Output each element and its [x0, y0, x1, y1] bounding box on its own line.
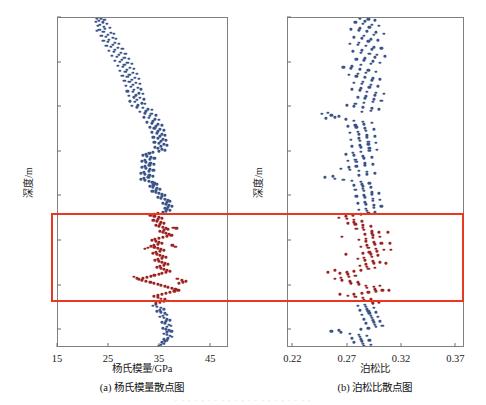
data-point — [127, 95, 130, 98]
y-tick-mark — [287, 284, 291, 285]
data-point — [359, 213, 362, 216]
data-point — [140, 166, 143, 169]
data-point — [356, 43, 359, 46]
data-point — [373, 266, 376, 269]
data-point — [143, 179, 146, 182]
x-tick-mark — [455, 343, 456, 347]
data-point — [344, 153, 347, 156]
data-point — [365, 240, 368, 243]
data-point — [108, 26, 111, 29]
data-point — [151, 175, 154, 178]
data-point — [347, 74, 350, 77]
data-point — [357, 239, 360, 242]
data-point — [161, 242, 164, 245]
data-point — [165, 139, 168, 142]
data-point — [370, 79, 373, 82]
data-point — [379, 284, 382, 287]
x-tick-label: 0.37 — [446, 353, 464, 364]
y-tick-mark — [287, 106, 291, 107]
data-point — [164, 134, 167, 137]
data-point — [387, 289, 390, 292]
data-point — [348, 132, 351, 135]
data-point — [106, 40, 109, 43]
data-point — [163, 308, 166, 311]
data-point — [365, 129, 368, 132]
data-point — [355, 161, 358, 164]
data-point — [340, 331, 343, 334]
data-point — [330, 330, 333, 333]
data-point — [152, 169, 155, 172]
data-point — [150, 122, 153, 125]
data-point — [370, 193, 373, 196]
data-point — [143, 247, 146, 250]
data-point — [378, 192, 381, 195]
data-point — [368, 52, 371, 55]
data-point — [358, 18, 361, 19]
data-point — [165, 256, 168, 259]
data-point — [353, 341, 356, 344]
data-point — [155, 183, 158, 186]
data-point — [347, 275, 350, 278]
data-point — [379, 78, 382, 81]
data-point — [353, 81, 356, 84]
data-point — [153, 157, 156, 160]
data-point — [349, 67, 352, 70]
data-point — [169, 291, 172, 294]
data-point — [157, 237, 160, 240]
data-point — [148, 126, 151, 129]
data-point — [381, 324, 384, 327]
data-point — [365, 203, 368, 206]
x-tick-label: 0.27 — [338, 353, 356, 364]
data-point — [339, 293, 342, 296]
data-point — [141, 154, 144, 157]
data-point — [143, 112, 146, 115]
data-point — [148, 152, 151, 155]
data-point — [367, 291, 370, 294]
data-point — [379, 235, 382, 238]
y-tick-mark — [57, 17, 61, 18]
data-point — [365, 71, 368, 74]
data-point — [352, 50, 355, 53]
data-point — [369, 109, 372, 112]
data-point — [379, 320, 382, 323]
data-point — [380, 47, 383, 50]
data-point — [349, 28, 352, 31]
data-point — [144, 103, 147, 106]
data-point — [371, 302, 374, 305]
data-point — [377, 315, 380, 318]
data-point — [390, 249, 393, 252]
data-point — [372, 307, 375, 310]
figure-caption-partial: · · · · · · · · · · · · · · · · · · · · … — [0, 396, 486, 404]
data-point — [375, 250, 378, 253]
data-point — [156, 212, 159, 215]
data-point — [162, 342, 165, 345]
data-point — [184, 280, 187, 283]
data-point — [158, 315, 161, 318]
data-point — [374, 290, 377, 293]
data-point — [147, 176, 150, 179]
data-point — [157, 150, 160, 153]
data-point — [113, 60, 116, 63]
y-axis-label-a: 深度/m — [20, 161, 35, 205]
data-point — [154, 114, 157, 117]
data-point — [366, 173, 369, 176]
data-point — [140, 172, 143, 175]
data-point — [153, 274, 156, 277]
data-point — [102, 39, 105, 42]
data-point — [380, 205, 383, 208]
scatter-points-a — [58, 18, 227, 346]
data-point — [359, 328, 362, 331]
data-point — [373, 135, 376, 138]
data-point — [353, 184, 356, 187]
y-tick-mark — [57, 106, 61, 107]
data-point — [382, 32, 385, 35]
data-point — [360, 313, 363, 316]
data-point — [168, 270, 171, 273]
data-point — [386, 231, 389, 234]
data-point — [164, 194, 167, 197]
data-point — [373, 94, 376, 97]
data-point — [357, 29, 360, 32]
data-point — [352, 214, 355, 217]
data-point — [367, 212, 370, 215]
data-point — [131, 91, 134, 94]
